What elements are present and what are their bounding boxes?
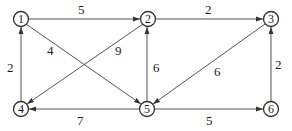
edge-2-4 bbox=[27, 24, 143, 104]
weight-2-4: 9 bbox=[115, 43, 122, 58]
node-3: 3 bbox=[264, 12, 279, 27]
edge-1-5 bbox=[26, 24, 141, 104]
weight-2-3: 2 bbox=[205, 2, 212, 17]
svg-text:6: 6 bbox=[268, 102, 274, 116]
weight-1-5: 4 bbox=[47, 43, 54, 58]
weight-5-2: 6 bbox=[153, 60, 160, 75]
svg-text:5: 5 bbox=[144, 102, 150, 116]
node-2: 2 bbox=[141, 12, 156, 27]
weight-4-1: 2 bbox=[7, 60, 14, 75]
weight-5-4: 7 bbox=[77, 113, 84, 128]
svg-text:3: 3 bbox=[268, 12, 274, 26]
node-4: 4 bbox=[14, 102, 29, 117]
weight-5-6: 5 bbox=[206, 113, 213, 128]
svg-text:4: 4 bbox=[18, 102, 24, 116]
node-1: 1 bbox=[14, 12, 29, 27]
svg-text:2: 2 bbox=[145, 12, 151, 26]
weight-3-5: 6 bbox=[214, 64, 221, 79]
node-6: 6 bbox=[264, 102, 279, 117]
weight-6-3: 2 bbox=[275, 57, 282, 72]
node-5: 5 bbox=[140, 102, 155, 117]
edge-3-5 bbox=[153, 24, 265, 104]
weight-1-2: 5 bbox=[78, 2, 85, 17]
svg-text:1: 1 bbox=[18, 12, 24, 26]
graph-diagram: 5 2 4 9 2 6 6 2 7 5 1 2 3 4 5 6 bbox=[0, 0, 292, 131]
